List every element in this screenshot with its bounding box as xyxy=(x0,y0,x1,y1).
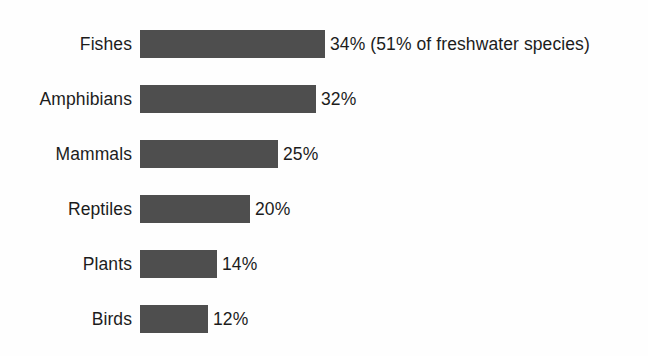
bar-track-plants xyxy=(140,250,217,278)
bar-birds xyxy=(140,305,208,333)
bar-amphibians xyxy=(140,85,316,113)
category-label-amphibians: Amphibians xyxy=(0,85,132,113)
bar-plants xyxy=(140,250,217,278)
annotation-fishes: (51% of freshwater species) xyxy=(370,34,590,54)
bar-row: Amphibians 32% xyxy=(0,85,648,113)
bar-row: Fishes 34% (51% of freshwater species) xyxy=(0,30,648,58)
bar-track-mammals xyxy=(140,140,278,168)
category-label-fishes: Fishes xyxy=(0,30,132,58)
value-label-mammals: 25% xyxy=(283,140,318,168)
bar-track-birds xyxy=(140,305,208,333)
value-text-fishes: 34% xyxy=(330,34,365,54)
value-label-fishes: 34% (51% of freshwater species) xyxy=(330,30,590,58)
bar-reptiles xyxy=(140,195,250,223)
bar-chart: Fishes 34% (51% of freshwater species) A… xyxy=(0,0,648,356)
bar-row: Plants 14% xyxy=(0,250,648,278)
category-label-mammals: Mammals xyxy=(0,140,132,168)
value-label-reptiles: 20% xyxy=(255,195,290,223)
category-label-reptiles: Reptiles xyxy=(0,195,132,223)
bar-fishes xyxy=(140,30,325,58)
bar-row: Reptiles 20% xyxy=(0,195,648,223)
bar-row: Birds 12% xyxy=(0,305,648,333)
bar-mammals xyxy=(140,140,278,168)
bar-row: Mammals 25% xyxy=(0,140,648,168)
category-label-plants: Plants xyxy=(0,250,132,278)
value-label-birds: 12% xyxy=(213,305,248,333)
value-label-plants: 14% xyxy=(222,250,257,278)
bar-track-fishes xyxy=(140,30,325,58)
bar-track-amphibians xyxy=(140,85,316,113)
bar-track-reptiles xyxy=(140,195,250,223)
category-label-birds: Birds xyxy=(0,305,132,333)
value-label-amphibians: 32% xyxy=(321,85,356,113)
